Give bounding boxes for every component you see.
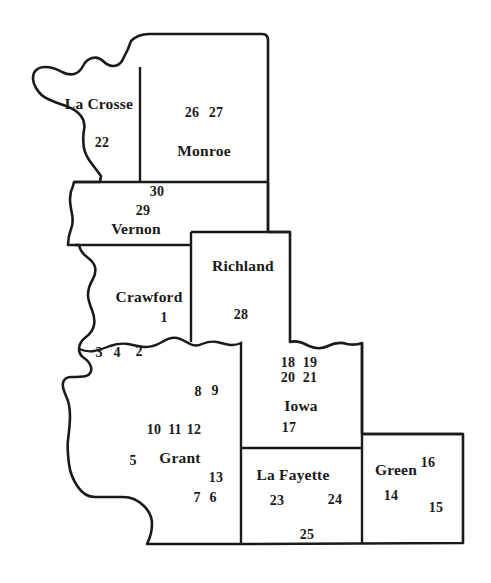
site-number-23: 23 bbox=[270, 493, 284, 509]
site-number-21: 21 bbox=[303, 370, 317, 386]
county-label-grant: Grant bbox=[159, 449, 200, 467]
site-number-19: 19 bbox=[303, 355, 317, 371]
county-label-la-fayette: La Fayette bbox=[256, 466, 329, 484]
site-number-20: 20 bbox=[281, 370, 295, 386]
county-label-vernon: Vernon bbox=[111, 220, 161, 238]
county-label-green: Green bbox=[375, 461, 417, 479]
site-number-9: 9 bbox=[211, 383, 218, 399]
site-number-4: 4 bbox=[113, 345, 120, 361]
site-number-18: 18 bbox=[281, 355, 295, 371]
site-number-28: 28 bbox=[234, 307, 248, 323]
county-label-iowa: Iowa bbox=[284, 397, 318, 415]
site-number-15: 15 bbox=[429, 500, 443, 516]
site-number-16: 16 bbox=[421, 455, 435, 471]
site-number-1: 1 bbox=[160, 310, 167, 326]
site-number-10: 10 bbox=[147, 422, 161, 438]
site-number-13: 13 bbox=[209, 470, 223, 486]
map-outline-svg bbox=[0, 0, 491, 583]
site-number-6: 6 bbox=[209, 490, 216, 506]
site-number-11: 11 bbox=[168, 422, 182, 438]
site-number-24: 24 bbox=[328, 492, 342, 508]
county-label-monroe: Monroe bbox=[177, 142, 230, 160]
site-number-26: 26 bbox=[185, 105, 199, 121]
site-number-29: 29 bbox=[136, 203, 150, 219]
county-label-crawford: Crawford bbox=[115, 288, 182, 306]
site-number-3: 3 bbox=[95, 345, 102, 361]
site-number-14: 14 bbox=[384, 488, 398, 504]
site-number-30: 30 bbox=[150, 184, 164, 200]
site-number-25: 25 bbox=[300, 527, 314, 543]
site-number-27: 27 bbox=[209, 105, 223, 121]
site-number-12: 12 bbox=[187, 422, 201, 438]
county-label-la-crosse: La Crosse bbox=[65, 95, 133, 113]
site-number-22: 22 bbox=[95, 135, 109, 151]
county-map: La Crosse22Monroe2627Vernon3029Crawford1… bbox=[0, 0, 491, 583]
site-number-2: 2 bbox=[135, 344, 142, 360]
site-number-17: 17 bbox=[282, 420, 296, 436]
site-number-5: 5 bbox=[129, 453, 136, 469]
county-label-richland: Richland bbox=[212, 257, 274, 275]
site-number-8: 8 bbox=[194, 384, 201, 400]
site-number-7: 7 bbox=[193, 490, 200, 506]
